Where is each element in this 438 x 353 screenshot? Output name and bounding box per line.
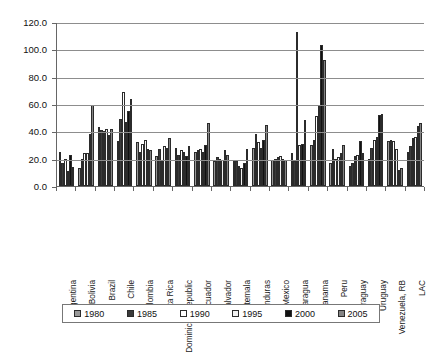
x-axis-category-label: Uruguay (379, 280, 388, 311)
bar (284, 160, 287, 186)
x-axis-category-label-wrap: Peru (340, 280, 349, 297)
gridline (57, 160, 424, 161)
bar (168, 138, 171, 186)
legend-label: 1980 (84, 309, 104, 319)
bar (400, 168, 403, 186)
bar (110, 129, 113, 186)
y-axis-tick-label: 0.0 (0, 181, 47, 192)
x-axis-category-label-wrap: Chile (127, 280, 136, 299)
legend-swatch-2005 (338, 310, 345, 317)
legend-item[interactable]: 2000 (285, 309, 315, 319)
bar (362, 153, 365, 186)
x-axis-category-label: Mexico (282, 280, 291, 306)
bar (265, 125, 268, 187)
bar (304, 120, 307, 186)
legend-label: 1990 (190, 309, 210, 319)
y-axis-tick-label: 80.0 (0, 72, 47, 83)
chart-legend: 198019851990199520002005 (62, 304, 380, 323)
gridline (57, 78, 424, 79)
legend-label: 2005 (348, 309, 368, 319)
legend-swatch-1995 (232, 310, 239, 317)
bar (323, 60, 326, 186)
y-axis-tick-label: 100.0 (0, 44, 47, 55)
bar (91, 105, 94, 186)
bar (342, 145, 345, 186)
x-axis-category-label-wrap: Bolivia (88, 280, 97, 304)
x-axis-category-label: LAC (418, 280, 427, 296)
legend-item[interactable]: 1985 (127, 309, 157, 319)
x-axis-category-label: Bolivia (88, 280, 97, 304)
x-axis-category-label-wrap: Uruguay (379, 280, 388, 311)
legend-item[interactable]: 2005 (338, 309, 368, 319)
y-axis-tick-label: 40.0 (0, 126, 47, 137)
x-axis-tick (424, 187, 425, 191)
bar (381, 114, 384, 186)
y-axis-tick (52, 160, 56, 161)
gridline (57, 105, 424, 106)
x-axis-category-label: Peru (340, 280, 349, 297)
y-axis-tick (52, 78, 56, 79)
legend-item[interactable]: 1995 (232, 309, 262, 319)
x-axis-category-label: Brazil (108, 280, 117, 300)
bar (149, 150, 152, 186)
bar (246, 149, 249, 186)
y-axis-tick (52, 132, 56, 133)
legend-swatch-2000 (285, 310, 292, 317)
x-axis-category-label-wrap: Venezuela, RB (398, 280, 407, 334)
x-axis-category-labels: ArgentinaBoliviaBrazilChileColombiaCosta… (56, 190, 424, 282)
gridline (57, 132, 424, 133)
legend-label: 1995 (242, 309, 262, 319)
bar (188, 146, 191, 186)
legend-label: 1985 (137, 309, 157, 319)
legend-swatch-1990 (180, 310, 187, 317)
y-axis-tick-label: 120.0 (0, 17, 47, 28)
x-axis-category-label: Venezuela, RB (398, 280, 407, 334)
bar (72, 167, 75, 186)
x-axis-category-label-wrap: Brazil (108, 280, 117, 300)
y-axis-tick (52, 50, 56, 51)
y-axis-tick (52, 105, 56, 106)
legend-swatch-1980 (74, 310, 81, 317)
x-axis-category-label: Chile (127, 280, 136, 299)
plot-area (56, 23, 424, 187)
legend-label: 2000 (295, 309, 315, 319)
x-axis-category-label-wrap: LAC (418, 280, 427, 296)
gridline (57, 23, 424, 24)
gridline (57, 50, 424, 51)
bar (130, 99, 133, 186)
x-axis-category-label-wrap: Mexico (282, 280, 291, 306)
y-axis-tick-label: 20.0 (0, 154, 47, 165)
y-axis-tick-label: 60.0 (0, 99, 47, 110)
legend-item[interactable]: 1990 (180, 309, 210, 319)
legend-swatch-1985 (127, 310, 134, 317)
legend-item[interactable]: 1980 (74, 309, 104, 319)
y-axis-tick (52, 23, 56, 24)
